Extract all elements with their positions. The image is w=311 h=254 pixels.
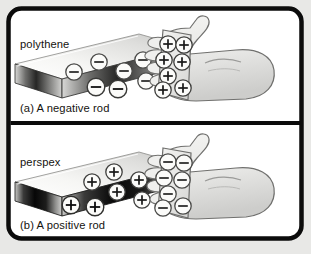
plus-charge [134,192,150,208]
material-label-polythene: polythene [20,38,69,50]
panel-caption-a: (a) A negative rod [20,102,110,114]
plus-charge [109,184,125,200]
plus-charge [176,37,192,53]
minus-charge [160,154,176,170]
minus-charge [66,64,82,80]
material-label-perspex: perspex [20,156,61,168]
plus-charge [175,80,191,96]
plus-charge [156,52,172,68]
plus-charge [86,198,104,216]
plus-charge [160,36,176,52]
minus-charge [116,63,132,79]
minus-charge [175,198,191,214]
minus-charge [155,200,171,216]
plus-charge [84,174,100,190]
plus-charge [155,82,171,98]
plus-charge [106,164,122,180]
plus-charge [174,54,190,70]
minus-charge [109,80,127,98]
electrostatics-figure: polythene (a) A negative rod [0,0,311,254]
minus-charge [87,78,105,96]
minus-charge [174,172,190,188]
minus-charge [176,155,192,171]
minus-charge [156,170,172,186]
panel-caption-b: (b) A positive rod [20,219,105,231]
plus-charge [62,196,80,214]
minus-charge [91,54,107,70]
